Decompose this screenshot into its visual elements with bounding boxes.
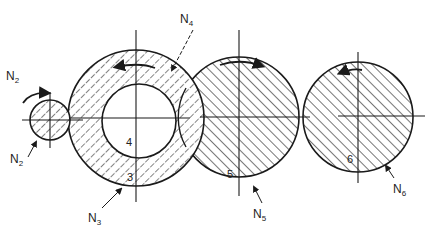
body-number-5: 5 (227, 168, 233, 180)
body-number-4: 4 (126, 136, 132, 148)
label-n2-top: N2 (6, 69, 20, 85)
label-n2-bottom: N2 (10, 152, 24, 168)
gear-train-diagram: 3 4 5 6 N2 N2 N3 N4 N5 N6 (0, 0, 436, 240)
diagram-canvas: 3 4 5 6 N2 N2 N3 N4 N5 N6 (0, 0, 436, 240)
body-number-6: 6 (347, 153, 353, 165)
label-n3: N3 (88, 211, 102, 227)
gear-4-bore (102, 84, 176, 158)
leader-n6 (386, 166, 394, 178)
leader-n4 (172, 30, 193, 70)
body-number-3: 3 (127, 171, 133, 183)
label-n5: N5 (253, 207, 267, 223)
leader-n2 (28, 142, 36, 157)
label-n4: N4 (180, 12, 194, 28)
leader-n3 (102, 189, 121, 208)
leader-n5 (254, 187, 262, 203)
label-n6: N6 (393, 182, 407, 198)
